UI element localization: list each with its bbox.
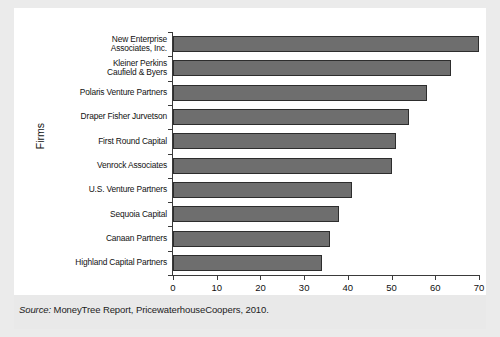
bar bbox=[173, 133, 396, 149]
bar bbox=[173, 182, 352, 198]
x-axis-tick-label: 50 bbox=[377, 282, 407, 293]
bar-row: Sequoia Capital bbox=[173, 206, 479, 222]
y-axis-tick bbox=[168, 251, 173, 252]
bar bbox=[173, 36, 479, 52]
x-axis-tick bbox=[173, 275, 174, 280]
y-axis-tick bbox=[168, 105, 173, 106]
bar bbox=[173, 158, 392, 174]
source-label: Source: bbox=[19, 304, 51, 315]
bar-row: Kleiner Perkins Caufield & Byers bbox=[173, 60, 479, 76]
x-axis-tick-label: 30 bbox=[289, 282, 319, 293]
y-axis-tick bbox=[168, 154, 173, 155]
chart-card: New Enterprise Associates, Inc.Kleiner P… bbox=[14, 8, 486, 295]
category-label: Highland Capital Partners bbox=[17, 258, 167, 267]
y-axis-tick bbox=[168, 56, 173, 57]
x-axis-tick-label: 60 bbox=[420, 282, 450, 293]
x-axis-tick bbox=[260, 275, 261, 280]
y-axis-tick bbox=[168, 178, 173, 179]
bar-row: U.S. Venture Partners bbox=[173, 182, 479, 198]
category-label: Kleiner Perkins Caufield & Byers bbox=[17, 59, 167, 77]
bar bbox=[173, 231, 330, 247]
x-axis-tick bbox=[435, 275, 436, 280]
bar-row: Canaan Partners bbox=[173, 231, 479, 247]
y-axis-tick bbox=[168, 226, 173, 227]
category-label: U.S. Venture Partners bbox=[17, 185, 167, 194]
y-axis-tick bbox=[168, 32, 173, 33]
x-axis-tick-label: 40 bbox=[333, 282, 363, 293]
bar bbox=[173, 109, 409, 125]
y-axis-tick bbox=[168, 129, 173, 130]
bar-row: Venrock Associates bbox=[173, 158, 479, 174]
bar-chart-plot-area: New Enterprise Associates, Inc.Kleiner P… bbox=[173, 32, 479, 275]
category-label: Draper Fisher Jurvetson bbox=[17, 112, 167, 121]
bar bbox=[173, 206, 339, 222]
x-axis-tick bbox=[348, 275, 349, 280]
source-note: Source: MoneyTree Report, Pricewaterhous… bbox=[19, 304, 269, 315]
bar-row: Polaris Venture Partners bbox=[173, 85, 479, 101]
x-axis-tick-label: 10 bbox=[202, 282, 232, 293]
category-label: Sequoia Capital bbox=[17, 210, 167, 219]
x-axis-tick bbox=[392, 275, 393, 280]
figure-container: New Enterprise Associates, Inc.Kleiner P… bbox=[0, 0, 500, 337]
bar-row: First Round Capital bbox=[173, 133, 479, 149]
x-axis-tick-label: 20 bbox=[245, 282, 275, 293]
bar-row: Highland Capital Partners bbox=[173, 255, 479, 271]
x-axis-tick bbox=[304, 275, 305, 280]
category-label: Polaris Venture Partners bbox=[17, 88, 167, 97]
x-axis-line bbox=[172, 275, 480, 276]
x-axis-tick-label: 0 bbox=[158, 282, 188, 293]
x-axis-tick-label: 70 bbox=[464, 282, 494, 293]
bar bbox=[173, 255, 322, 271]
category-label: Venrock Associates bbox=[17, 161, 167, 170]
category-label: Canaan Partners bbox=[17, 234, 167, 243]
x-axis-tick bbox=[217, 275, 218, 280]
bar bbox=[173, 60, 451, 76]
bar bbox=[173, 85, 427, 101]
y-axis-tick bbox=[168, 202, 173, 203]
source-text: MoneyTree Report, PricewaterhouseCoopers… bbox=[51, 304, 269, 315]
y-axis-title: Firms bbox=[34, 123, 46, 149]
x-axis-tick bbox=[479, 275, 480, 280]
category-label: New Enterprise Associates, Inc. bbox=[17, 35, 167, 53]
bar-row: Draper Fisher Jurvetson bbox=[173, 109, 479, 125]
bar-row: New Enterprise Associates, Inc. bbox=[173, 36, 479, 52]
y-axis-tick bbox=[168, 81, 173, 82]
